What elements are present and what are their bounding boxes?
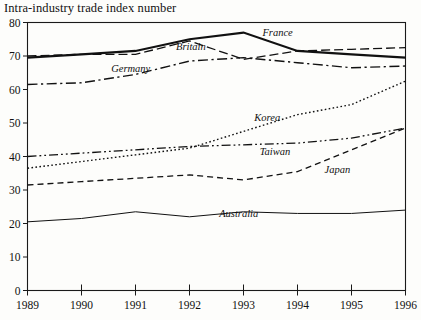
- chart-canvas: 01020304050607080 1989199019911992199319…: [0, 0, 421, 320]
- y-tick-label: 10: [9, 251, 21, 263]
- y-axis-ticks: 01020304050607080: [9, 17, 28, 297]
- x-tick-label: 1989: [16, 299, 39, 311]
- series-labels: FranceBritainGermanyKoreaTaiwanJapanAust…: [111, 27, 350, 220]
- y-tick-label: 20: [9, 218, 21, 230]
- y-tick-label: 30: [9, 184, 21, 196]
- x-tick-label: 1991: [124, 299, 147, 311]
- series-label-japan: Japan: [325, 164, 351, 175]
- series-label-taiwan: Taiwan: [260, 146, 291, 157]
- x-tick-label: 1994: [286, 299, 309, 311]
- series-line-australia: [28, 210, 406, 222]
- series-line-taiwan: [28, 128, 406, 156]
- series-line-korea: [28, 81, 406, 168]
- intra-industry-trade-line-chart: 01020304050607080 1989199019911992199319…: [0, 0, 421, 320]
- series-lines: [28, 33, 406, 222]
- x-tick-label: 1995: [340, 299, 363, 311]
- y-tick-label: 80: [9, 17, 21, 29]
- x-axis-ticks: 19891990199119921993199419951996: [16, 285, 417, 311]
- series-label-germany: Germany: [111, 63, 150, 74]
- y-tick-label: 50: [9, 117, 21, 129]
- series-line-germany: [28, 58, 406, 85]
- series-label-britain: Britain: [176, 41, 206, 52]
- y-tick-label: 70: [9, 50, 21, 62]
- y-tick-label: 60: [9, 84, 21, 96]
- series-label-korea: Korea: [253, 112, 280, 123]
- y-tick-label: 40: [9, 151, 21, 163]
- series-label-france: France: [261, 27, 293, 38]
- series-label-australia: Australia: [218, 208, 258, 219]
- x-tick-label: 1996: [394, 299, 417, 311]
- series-line-japan: [28, 128, 406, 185]
- plot-frame: [28, 23, 406, 291]
- series-line-britain: [28, 41, 406, 59]
- x-tick-label: 1993: [232, 299, 255, 311]
- x-tick-label: 1990: [70, 299, 93, 311]
- x-tick-label: 1992: [178, 299, 201, 311]
- y-tick-label: 0: [15, 285, 21, 297]
